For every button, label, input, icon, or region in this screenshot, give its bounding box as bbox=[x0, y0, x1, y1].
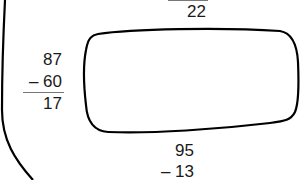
left-problem-subtrahend: – 60 bbox=[12, 72, 62, 92]
left-problem-minuend: 87 bbox=[20, 50, 62, 70]
left-problem-result: 17 bbox=[20, 94, 62, 114]
bottom-problem-minuend: 95 bbox=[150, 141, 194, 161]
rounded-box bbox=[84, 29, 298, 133]
top-problem-result: 22 bbox=[170, 2, 206, 22]
bottom-problem-subtrahend: – 13 bbox=[140, 162, 194, 180]
top-problem-rule bbox=[168, 0, 208, 1]
left-problem-rule bbox=[23, 92, 64, 93]
